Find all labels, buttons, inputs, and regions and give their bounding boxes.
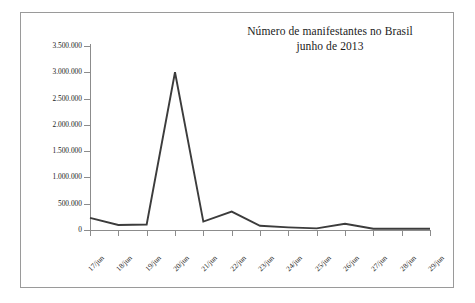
series-line-chart xyxy=(0,0,475,303)
series-polyline xyxy=(90,72,430,228)
chart-figure: Número de manifestantes no Brasil junho … xyxy=(0,0,475,303)
